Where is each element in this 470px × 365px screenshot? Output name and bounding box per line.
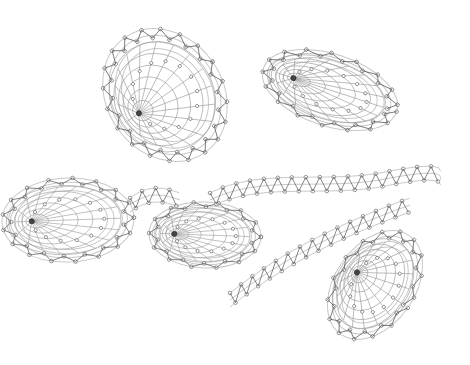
leaf-middle — [146, 199, 264, 271]
pin-hole — [355, 82, 359, 86]
pin-hole — [189, 74, 193, 78]
pin-hole — [74, 198, 77, 201]
pin-hole — [352, 304, 356, 308]
pin-hole — [396, 283, 400, 287]
pin-hole — [195, 89, 199, 93]
pin-hole — [103, 217, 106, 220]
pin-hole — [99, 226, 102, 229]
main-stem-band — [208, 164, 440, 207]
pin-hole — [365, 100, 369, 104]
pin-hole — [185, 220, 188, 223]
pin-hole — [75, 239, 78, 242]
pin-hole — [231, 227, 234, 230]
pin-hole — [131, 82, 135, 86]
pin-hole — [196, 249, 199, 252]
pin-hole — [176, 225, 179, 228]
pin-hole — [346, 109, 350, 113]
pin-hole — [325, 69, 329, 73]
leaf-center-point — [29, 219, 34, 224]
leaf-center-point — [172, 231, 177, 236]
pin-hole — [407, 211, 411, 215]
pin-hole — [184, 246, 187, 249]
pin-hole — [210, 250, 213, 253]
pin-hole — [177, 125, 181, 129]
pin-hole — [34, 229, 37, 232]
pin-hole — [231, 241, 234, 244]
pin-hole — [222, 247, 225, 250]
pin-hole — [371, 310, 375, 314]
pin-hole — [137, 69, 141, 73]
leaf-left — [0, 174, 137, 266]
pin-hole — [90, 234, 93, 237]
pin-hole — [44, 236, 47, 239]
pin-hole — [301, 94, 305, 98]
pin-hole — [58, 198, 61, 201]
pin-hole — [59, 239, 62, 242]
pin-hole — [297, 70, 301, 74]
pin-hole — [342, 74, 346, 78]
pin-hole — [197, 217, 200, 220]
pin-hole — [348, 294, 352, 298]
pin-hole — [363, 91, 367, 95]
pin-hole — [359, 106, 363, 110]
pin-hole — [195, 104, 199, 108]
leaf-top-left — [75, 2, 255, 188]
pin-hole — [162, 127, 166, 131]
pin-hole — [131, 97, 135, 101]
pin-hole — [43, 203, 46, 206]
pin-hole — [163, 59, 167, 63]
pin-hole — [148, 122, 152, 126]
leaf-top-right — [250, 32, 410, 148]
pin-hole — [391, 295, 395, 299]
pin-hole — [99, 208, 102, 211]
lace-diagram — [0, 0, 470, 365]
pin-hole — [386, 256, 390, 260]
pin-hole — [88, 201, 91, 204]
pin-hole — [223, 221, 226, 224]
pin-hole — [33, 210, 36, 213]
pin-hole — [175, 240, 178, 243]
pin-hole — [149, 61, 153, 65]
pin-hole — [397, 271, 401, 275]
pin-hole — [211, 218, 214, 221]
pin-hole — [234, 234, 237, 237]
